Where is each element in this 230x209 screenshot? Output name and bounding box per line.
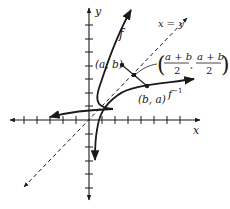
point-ba-label: (b, a): [138, 93, 166, 105]
midpoint-marker: [132, 73, 136, 77]
midpoint-denominator-1: 2: [174, 65, 180, 76]
point-ba: [145, 84, 149, 88]
curve-f-label: f: [118, 27, 126, 41]
midpoint-label: ( a + b 2 , a + b 2 ): [157, 51, 230, 77]
midpoint-close-paren: ): [221, 52, 230, 77]
curve-f-inverse-label: f−1: [167, 87, 182, 101]
identity-line-label: x = y: [158, 18, 184, 29]
midpoint-denominator-2: 2: [206, 65, 212, 76]
point-ab-label: (a, b): [95, 58, 123, 70]
inverse-function-diagram: y x x = y f f−1 (a, b) (b, a) ( a + b 2 …: [0, 0, 230, 209]
midpoint-numerator-1: a + b: [165, 51, 192, 62]
y-axis-label: y: [94, 5, 102, 18]
midpoint-comma: ,: [190, 59, 193, 70]
midpoint-leader: [136, 64, 157, 74]
x-axis-label: x: [193, 124, 200, 137]
